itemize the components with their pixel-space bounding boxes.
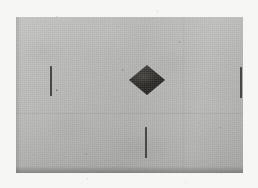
screenshot-root [0, 0, 258, 188]
photographic-plate [16, 17, 243, 173]
rhombus-grain [129, 65, 165, 95]
tick-mark-bottom [145, 127, 147, 158]
tick-mark-right [240, 67, 242, 98]
plate-left-edge-band [16, 17, 21, 173]
plate-vertical-seam [183, 17, 184, 173]
tick-mark-left [50, 66, 52, 96]
plate-horizontal-seam [16, 113, 243, 114]
plate-bottom-edge-band [16, 166, 243, 173]
rhombus-specimen [129, 65, 165, 95]
